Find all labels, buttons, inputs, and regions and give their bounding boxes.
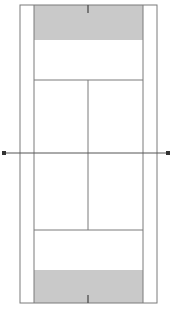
court-background (0, 0, 173, 310)
tennis-court-diagram (0, 0, 173, 310)
court-svg-canvas (0, 0, 173, 310)
net-left-post-marker (2, 151, 6, 155)
net-right-post-marker (166, 151, 170, 155)
